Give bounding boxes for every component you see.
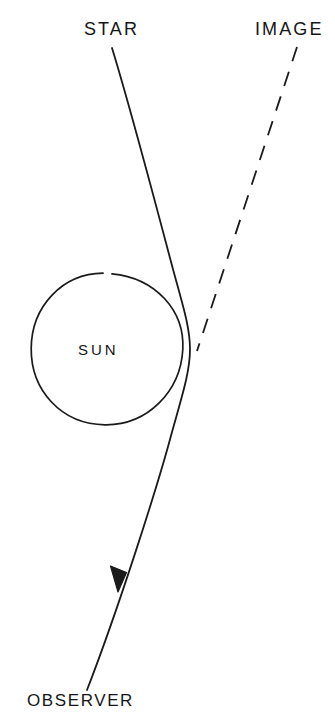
diagram-canvas (0, 0, 335, 720)
sun-label: SUN (78, 342, 119, 357)
star-label: STAR (84, 20, 139, 38)
observer-label: OBSERVER (27, 692, 134, 709)
light-deflection-diagram: STAR IMAGE SUN OBSERVER (0, 0, 335, 720)
image-label: IMAGE (255, 20, 324, 38)
apparent-image-dashed-line (197, 47, 297, 351)
light-ray-path (87, 48, 190, 690)
